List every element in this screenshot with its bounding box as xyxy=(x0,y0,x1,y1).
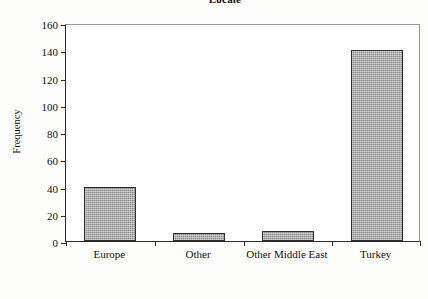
y-axis-title: Frequency xyxy=(11,82,22,182)
x-label-other: Other xyxy=(154,248,243,261)
bar-chart: Locale Frequency 020406080100120140160 E… xyxy=(0,0,428,299)
chart-title: Locale xyxy=(0,0,428,5)
y-tick-40 xyxy=(61,189,66,190)
y-tick-120 xyxy=(61,80,66,81)
x-tick-3 xyxy=(332,241,333,246)
y-tick-label-20: 20 xyxy=(47,210,58,222)
bar-europe xyxy=(84,187,136,242)
bar-other-middle-east xyxy=(262,231,314,241)
bar-turkey xyxy=(351,50,403,241)
plot-area: 020406080100120140160 xyxy=(65,24,420,242)
x-label-europe: Europe xyxy=(65,248,154,261)
y-tick-label-40: 40 xyxy=(47,183,58,195)
y-tick-label-120: 120 xyxy=(42,74,59,86)
bar-other xyxy=(173,233,225,241)
x-label-turkey: Turkey xyxy=(331,248,420,261)
y-tick-160 xyxy=(61,25,66,26)
y-tick-label-80: 80 xyxy=(47,128,58,140)
y-tick-label-60: 60 xyxy=(47,155,58,167)
x-tick-4 xyxy=(420,241,421,246)
y-tick-140 xyxy=(61,52,66,53)
y-tick-60 xyxy=(61,161,66,162)
y-tick-label-160: 160 xyxy=(42,19,59,31)
x-tick-2 xyxy=(244,241,245,246)
y-tick-label-0: 0 xyxy=(53,237,59,249)
y-tick-label-140: 140 xyxy=(42,46,59,58)
y-tick-100 xyxy=(61,107,66,108)
y-tick-80 xyxy=(61,134,66,135)
x-tick-0 xyxy=(66,241,67,246)
y-tick-20 xyxy=(61,216,66,217)
x-label-other-middle-east: Other Middle East xyxy=(243,248,332,261)
y-tick-label-100: 100 xyxy=(42,101,59,113)
x-tick-1 xyxy=(155,241,156,246)
